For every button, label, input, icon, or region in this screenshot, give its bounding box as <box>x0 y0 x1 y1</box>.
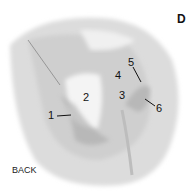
panel-letter: D <box>177 12 186 26</box>
side-label: BACK <box>12 165 37 175</box>
label-3: 3 <box>119 90 125 101</box>
label-5: 5 <box>128 57 134 68</box>
label-2: 2 <box>83 92 89 103</box>
label-4: 4 <box>115 70 121 81</box>
label-6: 6 <box>156 103 162 114</box>
anatomical-figure: D 1 2 3 4 5 6 BACK <box>0 0 192 193</box>
label-1: 1 <box>48 110 54 121</box>
